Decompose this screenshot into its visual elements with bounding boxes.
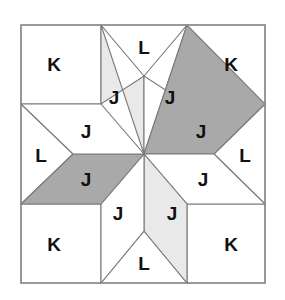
patch-label-star-point-north: J [109,87,120,108]
patch-label-star-point-south: J [167,203,178,224]
quilt-patch-corner-bottom-left [21,204,101,283]
patch-label-star-point-northeast: J [165,87,176,108]
patch-label-edge-triangle-left: L [35,145,47,166]
patch-label-star-point-east-upper: J [196,121,207,142]
quilt-patch-corner-top-left [21,25,101,104]
patch-label-corner-top-right: K [224,54,238,75]
quilt-block-canvas: KKKKLLLLJJJJJJJJ [0,0,285,300]
patch-label-star-point-southwest: J [113,203,124,224]
patch-label-star-point-east-lower: J [198,169,209,190]
quilt-block-figure: KKKKLLLLJJJJJJJJ [0,0,285,300]
patch-label-corner-top-left: K [47,54,61,75]
patch-label-edge-triangle-top: L [138,37,150,58]
patch-label-corner-bottom-right: K [224,234,238,255]
patch-label-corner-bottom-left: K [47,234,61,255]
patch-label-star-point-west-lower: J [81,169,92,190]
patch-label-edge-triangle-right: L [239,145,251,166]
patch-label-star-point-west-upper: J [81,121,92,142]
patch-label-edge-triangle-bottom: L [138,253,150,274]
